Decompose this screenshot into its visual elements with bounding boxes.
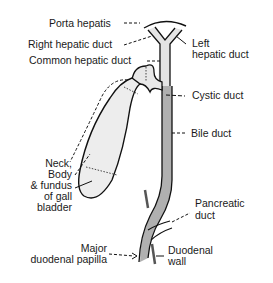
- label-common-hepatic-duct: Common hepatic duct: [29, 55, 131, 67]
- label-gallbladder-5: bladder: [37, 202, 72, 214]
- label-pancreatic-duct-2: duct: [195, 210, 215, 222]
- label-major-papilla-2: duodenal papilla: [31, 254, 107, 266]
- label-right-hepatic-duct: Right hepatic duct: [28, 39, 112, 51]
- duodenal-wall-lower: [152, 244, 155, 264]
- label-cystic-duct: Cystic duct: [192, 90, 243, 102]
- duodenal-wall-upper: [145, 190, 148, 208]
- label-bile-duct: Bile duct: [191, 128, 231, 140]
- biliary-diagram: Porta hepatis Right hepatic duct Common …: [0, 0, 273, 283]
- gallbladder: [79, 78, 140, 198]
- porta-hepatis-arc: [144, 21, 186, 28]
- label-porta-hepatis: Porta hepatis: [49, 18, 111, 30]
- label-pancreatic-duct-1: Pancreatic: [195, 198, 245, 210]
- label-duodenal-wall-2: wall: [168, 256, 186, 268]
- label-left-hepatic-duct-2: hepatic duct: [192, 49, 249, 61]
